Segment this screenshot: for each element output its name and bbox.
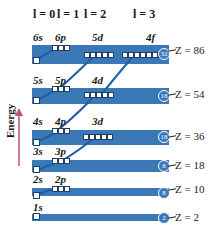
orbital-box-3s: [33, 166, 40, 173]
orbital-boxes-5p: [52, 86, 70, 92]
orbital-label-5p: 5p: [55, 74, 66, 86]
orbital-boxes-3d: [83, 134, 113, 140]
orbital-boxes-6p: [52, 45, 70, 51]
orbital-label-4f: 4f: [146, 31, 155, 43]
orbital-boxes-4d: [84, 92, 114, 98]
energy-axis-label: Energy: [4, 104, 16, 138]
orbital-label-6p: 6p: [55, 31, 66, 43]
orbital-label-5d: 5d: [92, 31, 103, 43]
z-label-2: Z = 2: [175, 211, 199, 223]
orbital-label-5s: 5s: [33, 74, 43, 86]
orbital-boxes-3p: [52, 158, 70, 164]
orbital-label-4d: 4d: [92, 74, 103, 86]
z-label-10: Z = 10: [175, 183, 204, 195]
orbital-label-2s: 2s: [33, 173, 43, 185]
orbital-box-6s: [33, 57, 40, 64]
orbital-label-3d: 3d: [92, 115, 103, 127]
orbital-boxes-4p: [52, 128, 70, 134]
orbital-label-4s: 4s: [33, 115, 43, 127]
orbital-label-6s: 6s: [33, 31, 43, 43]
orbital-box-1s: [33, 213, 40, 220]
z-label-54: Z = 54: [175, 88, 204, 100]
orbital-boxes-5d: [84, 52, 114, 58]
z-label-86: Z = 86: [175, 44, 204, 56]
orbital-box-5s: [33, 97, 40, 104]
z-label-18: Z = 18: [175, 159, 204, 171]
capacity-badge-z54: 18: [158, 90, 170, 102]
orbital-box-2s: [33, 192, 40, 199]
orbital-boxes-2p: [52, 186, 70, 192]
orbital-label-4p: 4p: [55, 115, 66, 127]
orbital-label-1s: 1s: [33, 201, 43, 213]
orbital-label-3p: 3p: [55, 145, 66, 157]
orbital-label-2p: 2p: [55, 173, 66, 185]
z-label-36: Z = 36: [175, 130, 204, 142]
orbital-label-3s: 3s: [33, 145, 43, 157]
